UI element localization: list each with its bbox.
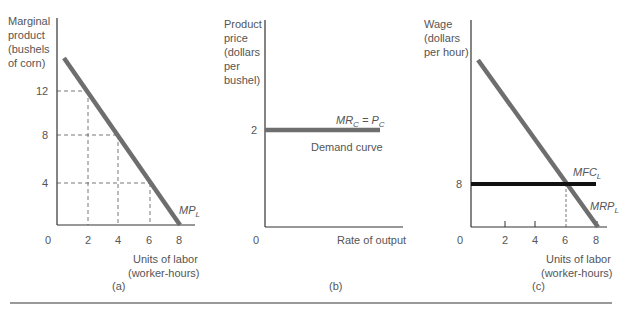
ylabel-c-1: Wage (424, 18, 452, 30)
ylabel-b-1: Product (224, 18, 262, 30)
mrp-curve (478, 60, 598, 227)
xtick-c-2: 2 (502, 234, 508, 246)
ylabel-c-3: per hour) (424, 46, 469, 58)
panel-label-a: (a) (112, 280, 125, 292)
ylabel-b-3: (dollars (224, 46, 261, 58)
ytick-c-8: 8 (456, 178, 462, 190)
mrp-label: MRPL (590, 200, 619, 215)
ylabel-a-4: of corn) (8, 57, 45, 69)
xticks-c (505, 221, 597, 227)
ytick-a-4: 4 (42, 177, 48, 189)
xtick-a-8: 8 (176, 234, 182, 246)
xlabel-c-2: (worker-hours) (541, 267, 613, 279)
xtick-a-4: 4 (115, 234, 121, 246)
ylabel-a-1: Marginal (8, 15, 50, 27)
origin-c: 0 (457, 234, 463, 246)
ylabel-b-2: price (224, 32, 248, 44)
ylabel-c-2: (dollars (424, 32, 461, 44)
ylabel-b-4: per (224, 60, 240, 72)
mp-label: MPL (179, 204, 200, 219)
origin-b: 0 (253, 234, 259, 246)
panel-b: Product price (dollars per bushel) MRC =… (224, 18, 406, 292)
mfc-label: MFCL (573, 166, 601, 181)
panel-c: Wage (dollars per hour) MFCL MRPL 8 0 2 … (424, 18, 619, 292)
xlabel-a-1: Units of labor (133, 253, 198, 265)
ytick-a-12: 12 (36, 85, 48, 97)
figure: Marginal product (bushels of corn) 12 8 … (0, 0, 632, 311)
ylabel-a-3: (bushels (8, 43, 50, 55)
mr-label: MRC = PC (336, 114, 385, 129)
mp-curve (64, 58, 180, 225)
xtick-c-8: 8 (593, 234, 599, 246)
ytick-a-8: 8 (42, 129, 48, 141)
demand-curve-label: Demand curve (311, 141, 383, 153)
xtick-a-2: 2 (85, 234, 91, 246)
ytick-b-2: 2 (251, 124, 257, 136)
ylabel-b-5: bushel) (224, 74, 260, 86)
origin-a: 0 (45, 234, 51, 246)
xtick-c-6: 6 (562, 234, 568, 246)
xlabel-a-2: (worker-hours) (128, 267, 200, 279)
xlabel-c-1: Units of labor (546, 253, 611, 265)
xtick-c-4: 4 (532, 234, 538, 246)
panel-label-c: (c) (532, 280, 545, 292)
xtick-a-6: 6 (146, 234, 152, 246)
panel-a: Marginal product (bushels of corn) 12 8 … (8, 15, 200, 292)
ylabel-a-2: product (8, 29, 45, 41)
xlabel-b: Rate of output (337, 234, 406, 246)
panel-label-b: (b) (329, 280, 342, 292)
